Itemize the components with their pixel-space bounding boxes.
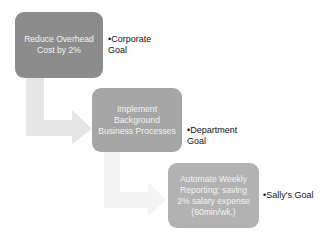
goal-label-department: •Department Goal bbox=[187, 125, 237, 147]
goal-label-individual: •Sally's Goal bbox=[263, 190, 313, 201]
step-box-corporate: Reduce Overhead Cost by 2% bbox=[15, 12, 103, 78]
step-label: Reduce Overhead Cost by 2% bbox=[24, 34, 94, 56]
goal-label-corporate: •Corporate Goal bbox=[108, 34, 151, 56]
step-box-individual: Automate Weekly Reporting; saving 2% sal… bbox=[168, 163, 259, 228]
step-box-department: Implement Background Business Processes bbox=[92, 88, 182, 152]
bent-arrow-icon bbox=[102, 152, 168, 216]
step-label: Implement Background Business Processes bbox=[98, 104, 175, 137]
step-label: Automate Weekly Reporting; saving 2% sal… bbox=[177, 174, 250, 218]
bent-arrow-icon bbox=[24, 78, 94, 144]
